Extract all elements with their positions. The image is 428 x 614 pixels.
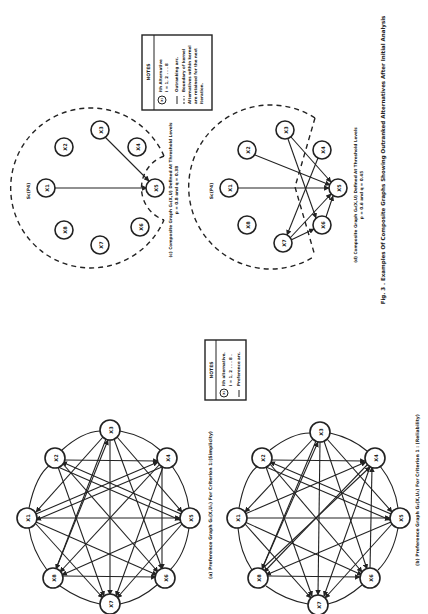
svg-text:X7: X7 xyxy=(316,601,322,609)
svg-text:X1: X1 xyxy=(235,514,241,522)
node-x6: X6 xyxy=(131,218,149,236)
svg-text:X2: X2 xyxy=(260,454,266,462)
svg-text:X4: X4 xyxy=(135,143,141,151)
svg-text:Xi: Xi xyxy=(222,391,226,394)
panel-a-preference-graph: X1 X2 X3 X4 X5 X6 X7 X8 (a) Preference G… xyxy=(17,420,213,614)
node-x8: X8 xyxy=(43,568,63,588)
node-x8: X8 xyxy=(248,568,268,588)
svg-text:X6: X6 xyxy=(163,574,169,582)
svg-text:X4: X4 xyxy=(320,146,326,154)
node-x6: X6 xyxy=(155,568,175,588)
panel-b-caption: (b) Preference Graph G₂(X,U₂) For Criter… xyxy=(415,414,420,566)
figure-title: Fig. 3 . Examples Of Composite Graphs Sh… xyxy=(380,15,387,304)
panel-c-caption: (c) Composite Graph G₀(X,U) Defined At T… xyxy=(168,122,173,258)
node-x2: X2 xyxy=(238,141,256,159)
node-x6: X6 xyxy=(313,216,331,234)
node-x2: X2 xyxy=(252,448,272,468)
svg-text:X8: X8 xyxy=(62,226,68,234)
svg-text:X2: X2 xyxy=(62,143,68,151)
node-x5: X5 xyxy=(146,179,164,197)
notes-legend-preference: NOTES Xi ith alternative. i = 1, 2 . . .… xyxy=(205,340,246,400)
node-x4: X4 xyxy=(128,138,146,156)
node-x1: X1 xyxy=(17,508,37,528)
svg-text:Boundary of kernel: Boundary of kernel xyxy=(181,48,186,92)
svg-text:X8: X8 xyxy=(256,574,262,582)
svg-text:X5: X5 xyxy=(153,184,159,192)
panel-c-composite-graph: X1 X2 X3 X4 X5 X6 X7 X8 Sc(P4) (c) Compo… xyxy=(11,108,179,268)
svg-text:X1: X1 xyxy=(227,184,233,192)
arc-x2-x5 xyxy=(255,155,330,185)
svg-text:X8: X8 xyxy=(51,574,57,582)
svg-text:Xi: Xi xyxy=(160,98,164,101)
svg-text:ith alternative.: ith alternative. xyxy=(221,352,226,386)
node-x7: X7 xyxy=(308,595,328,614)
arc-x6-x5 xyxy=(326,196,333,217)
svg-text:Preference arc.: Preference arc. xyxy=(236,351,241,386)
node-x5: X5 xyxy=(180,508,200,528)
svg-text:X3: X3 xyxy=(283,126,289,134)
node-x4: X4 xyxy=(157,448,177,468)
panel-d-composite-graph: X1 X2 X3 X4 X5 X6 X7 X8 Sc(P4) (d) Compo… xyxy=(189,105,364,269)
svg-text:X5: X5 xyxy=(398,514,404,522)
svg-text:X3: X3 xyxy=(318,428,324,436)
svg-text:i = 1, 2 . . . 8: i = 1, 2 . . . 8 xyxy=(164,63,169,92)
svg-text:X2: X2 xyxy=(53,454,59,462)
arc-x7-x6 xyxy=(291,229,314,240)
kernel-label: Sc(P4) xyxy=(209,183,214,199)
node-x2: X2 xyxy=(45,448,65,468)
figure-canvas: X1 X2 X3 X4 X5 X6 X7 X8 Sc(P4) (c) Compo… xyxy=(0,0,428,614)
node-x8: X8 xyxy=(55,221,73,239)
node-x3: X3 xyxy=(276,121,294,139)
svg-text:X5: X5 xyxy=(336,184,342,192)
node-x7: X7 xyxy=(100,594,120,614)
svg-text:ith Alternative: ith Alternative xyxy=(158,59,163,92)
svg-text:Alternatives within kernel: Alternatives within kernel xyxy=(187,45,192,104)
svg-text:X4: X4 xyxy=(373,454,379,462)
svg-text:X7: X7 xyxy=(281,239,287,247)
node-x6: X6 xyxy=(360,568,380,588)
svg-text:X1: X1 xyxy=(44,184,50,192)
svg-text:X2: X2 xyxy=(245,146,251,154)
svg-text:X3: X3 xyxy=(108,426,114,434)
panel-c-caption-params: p = 0.8 and q = 0.38 xyxy=(174,166,179,214)
svg-text:iteration.: iteration. xyxy=(199,82,204,104)
svg-text:X8: X8 xyxy=(245,221,251,229)
svg-text:NOTES: NOTES xyxy=(209,362,214,379)
node-x3: X3 xyxy=(91,121,109,139)
node-x2: X2 xyxy=(55,138,73,156)
kernel-boundary xyxy=(189,105,315,269)
panel-b-preference-graph: X1 X2 X3 X4 X5 X6 X7 X8 (b) Preference G… xyxy=(227,414,420,614)
arc-x3-x6 xyxy=(288,139,316,218)
node-x4: X4 xyxy=(313,141,331,159)
svg-text:X1: X1 xyxy=(25,514,31,522)
node-x1: X1 xyxy=(37,179,55,197)
svg-text:X6: X6 xyxy=(138,223,144,231)
svg-text:X6: X6 xyxy=(320,221,326,229)
node-x3: X3 xyxy=(100,420,120,440)
node-x1: X1 xyxy=(220,179,238,197)
svg-text:i = 1, 2 . . . 8 .: i = 1, 2 . . . 8 . xyxy=(228,354,233,386)
node-x8: X8 xyxy=(238,216,256,234)
svg-text:NOTES: NOTES xyxy=(146,64,151,81)
notes-legend-composite: NOTES Xi ith Alternative i = 1, 2 . . . … xyxy=(142,35,212,110)
svg-text:X4: X4 xyxy=(165,454,171,462)
svg-text:Outranking arc.: Outranking arc. xyxy=(174,56,179,92)
svg-text:X5: X5 xyxy=(188,514,194,522)
panel-d-caption-params: p = 0.6 and q = 0.45 xyxy=(359,171,364,219)
node-x7: X7 xyxy=(274,234,292,252)
node-x3: X3 xyxy=(310,422,330,442)
node-x4: X4 xyxy=(365,448,385,468)
svg-text:are retained for the next: are retained for the next xyxy=(193,48,198,104)
node-x5: X5 xyxy=(390,508,410,528)
node-x1: X1 xyxy=(227,508,247,528)
node-x7: X7 xyxy=(91,236,109,254)
svg-text:X7: X7 xyxy=(108,600,114,608)
panel-a-caption: (a) Preference Graph G₁(X,U₁) For Criter… xyxy=(208,431,213,579)
svg-text:X6: X6 xyxy=(368,574,374,582)
panel-d-caption: (d) Composite Graph G₀(X,U) Defined At T… xyxy=(353,127,358,263)
scanned-figure-page: X1 X2 X3 X4 X5 X6 X7 X8 Sc(P4) (c) Compo… xyxy=(0,0,428,614)
svg-text:X3: X3 xyxy=(98,126,104,134)
kernel-label: Sc(P4) xyxy=(26,183,31,199)
node-x5: X5 xyxy=(329,179,347,197)
svg-text:X7: X7 xyxy=(98,241,104,249)
